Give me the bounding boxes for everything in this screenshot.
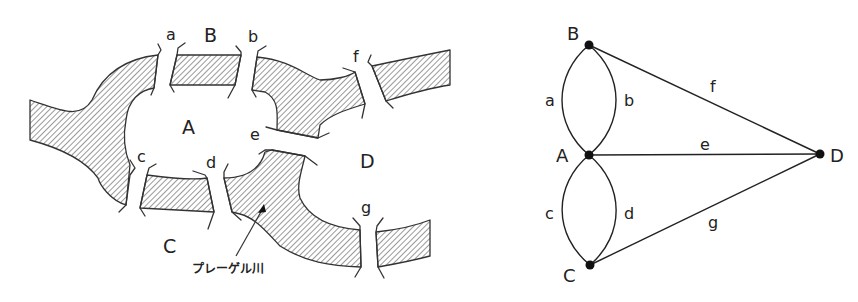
graph-edge-label-e: e xyxy=(700,135,710,154)
graph-edge-d xyxy=(589,155,616,265)
river-central-junction xyxy=(224,150,361,267)
graph-edge-b xyxy=(589,45,616,155)
bridge-label-g: g xyxy=(361,198,371,217)
graph-edge-label-d: d xyxy=(624,204,634,223)
bridge-label-e: e xyxy=(250,125,260,144)
bridge-label-a: a xyxy=(166,25,176,44)
graph-edge-label-c: c xyxy=(545,204,554,223)
graph-node-label-d: D xyxy=(830,145,844,166)
land-label-c: C xyxy=(163,235,176,257)
land-label-b: B xyxy=(204,24,217,46)
bridge-label-f: f xyxy=(353,47,359,66)
graph-edge-e xyxy=(589,154,820,155)
graph-edge-label-g: g xyxy=(708,213,718,232)
river-east-lower xyxy=(376,220,430,267)
graph-node-label-b: B xyxy=(567,23,579,44)
bridge-label-c: c xyxy=(137,147,146,166)
river-east-upper xyxy=(372,50,450,101)
graph-node-label-c: C xyxy=(563,265,576,286)
land-label-d: D xyxy=(360,150,375,172)
graph-edge-c xyxy=(562,155,590,265)
river-name-label: プレーゲル川 xyxy=(192,261,264,276)
graph-node-d xyxy=(816,150,825,159)
bridge-label-b: b xyxy=(248,27,258,46)
graph-node-b xyxy=(585,41,594,50)
graph-edge-label-b: b xyxy=(624,91,634,110)
river-north-channel xyxy=(170,55,241,85)
river-south-channel xyxy=(140,175,214,212)
graph-edge-label-f: f xyxy=(710,77,716,96)
land-label-a: A xyxy=(182,116,195,138)
river-map: a b f e c d g B A C D プレーゲル川 xyxy=(30,24,450,278)
graph-node-a xyxy=(585,151,594,160)
graph-diagram: B A C D a b c d e f g xyxy=(545,23,844,286)
konigsberg-figure: a b f e c d g B A C D プレーゲル川 xyxy=(0,0,858,302)
graph-node-c xyxy=(586,261,595,270)
graph-edge-label-a: a xyxy=(545,91,555,110)
graph-edge-a xyxy=(562,45,589,155)
bridge-label-d: d xyxy=(206,153,216,172)
graph-node-label-a: A xyxy=(556,145,569,166)
river-west-fork xyxy=(30,55,158,205)
